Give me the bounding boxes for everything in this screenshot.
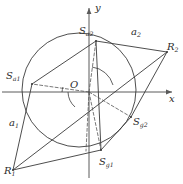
solid-lines-group [13, 41, 167, 170]
marker-sa1 [31, 83, 33, 85]
dashed-lines-group [32, 41, 131, 151]
segment-sg2-bottom [101, 117, 131, 150]
y-axis-arrowhead [87, 8, 92, 14]
radius-to-sa2 [89, 41, 96, 92]
angle-arcs-group [62, 67, 113, 107]
segment-sa2-r2 [96, 41, 167, 52]
marker-r2 [166, 51, 168, 53]
x-axis-arrowhead [166, 90, 172, 95]
angle-arc-lower [68, 92, 75, 107]
marker-sa2 [95, 40, 97, 42]
marker-r1 [12, 169, 14, 171]
marker-sg1 [100, 149, 102, 151]
marker-sg2 [130, 116, 132, 118]
segment-r2-sg2 [131, 52, 167, 117]
angle-arc-left-small [62, 87, 63, 92]
point-markers-group [12, 40, 168, 171]
angle-arc-upper [92, 67, 113, 85]
radius-to-sa1 [32, 84, 89, 92]
geometry-figure: y x O Sa1 Sa2 Sg1 Sg2 R2 R1 a2 a1 [0, 0, 183, 184]
radius-to-sg1 [89, 92, 101, 150]
figure-canvas [0, 0, 183, 184]
diagonal-sa2-sg1 [96, 41, 101, 150]
